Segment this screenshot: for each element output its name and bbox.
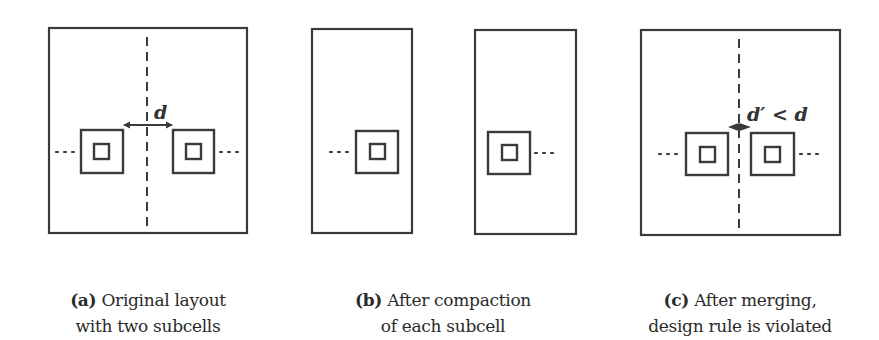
via-box-right [173, 130, 214, 173]
spacing-label-d-prime: d′ < d [747, 103, 808, 125]
caption-tag: (c) [663, 290, 689, 310]
panel-b [312, 29, 576, 234]
via-core-right [765, 147, 780, 162]
caption-c-line2: design rule is violated [610, 313, 870, 339]
via-core-left [700, 147, 715, 162]
caption-a: (a) Original layout with two subcells [18, 287, 278, 339]
via-box-right [488, 132, 530, 174]
caption-text: After compaction [387, 290, 531, 310]
caption-a-line1: (a) Original layout [18, 287, 278, 313]
caption-a-line2: with two subcells [18, 313, 278, 339]
panel-c: d′ < d [641, 30, 840, 235]
caption-text: Original layout [101, 290, 225, 310]
via-box-right [751, 133, 794, 175]
spacing-label-d: d [154, 101, 167, 123]
via-core-right [186, 144, 201, 159]
merged-cell-outline [641, 30, 840, 235]
caption-c-line1: (c) After merging, [610, 287, 870, 313]
via-box-left [81, 130, 123, 173]
caption-text: After merging, [694, 290, 816, 310]
panel-a: d [49, 28, 247, 233]
caption-tag: (a) [70, 290, 96, 310]
caption-c: (c) After merging, design rule is violat… [610, 287, 870, 339]
caption-tag: (b) [355, 290, 382, 310]
caption-b-line1: (b) After compaction [313, 287, 573, 313]
via-core-right [502, 145, 517, 160]
via-box-left [686, 133, 728, 175]
via-core-left [370, 144, 385, 159]
via-core-left [94, 144, 109, 159]
caption-b-line2: of each subcell [313, 313, 573, 339]
via-box-left [356, 131, 398, 173]
caption-b: (b) After compaction of each subcell [313, 287, 573, 339]
